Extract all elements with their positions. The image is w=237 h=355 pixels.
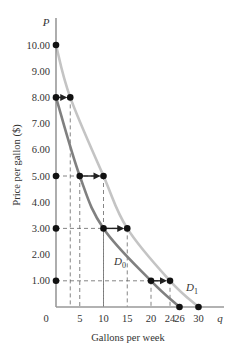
axes [56,18,224,307]
y-axis-title: Price per gallon ($) [11,124,23,206]
y-tick-label: 7.00 [32,118,50,129]
data-point [100,225,107,232]
origin-label: 0 [43,313,48,324]
y-tick-label: 5.00 [32,171,50,182]
y-tick-label: 2.00 [32,249,50,260]
x-tick-label: 30 [193,313,204,324]
data-point [53,225,60,232]
y-axis-symbol: P [42,16,50,28]
data-point [176,304,183,311]
data-point [195,304,202,311]
y-tick-label: 6.00 [32,144,50,155]
x-axis-symbol: q [217,312,223,324]
data-point [67,94,74,101]
label-d0: D0 [113,255,126,270]
arrow-head-icon [160,277,167,284]
y-tick-label: 4.00 [32,197,50,208]
data-point [53,278,60,285]
x-tick-label: 5 [77,313,82,324]
data-point [53,42,60,49]
curve-d0 [56,97,180,307]
arrow-head-icon [60,94,67,101]
y-tick-label: 8.00 [32,92,50,103]
arrow-head-icon [117,225,124,232]
y-tick-label: 3.00 [32,223,50,234]
x-tick-label: 10 [98,313,109,324]
y-tick-label: 1.00 [32,275,50,286]
data-point [53,94,60,101]
data-point [76,173,83,180]
data-point [148,278,155,285]
x-tick-label: 26 [174,313,185,324]
arrow-head-icon [94,173,101,180]
x-tick-label: 20 [146,313,157,324]
y-tick-label: 10.00 [26,40,50,51]
label-d1: D1 [185,281,198,296]
data-point [124,225,131,232]
shift-arrows [56,94,167,284]
x-tick-label: 15 [122,313,133,324]
data-point [167,278,174,285]
y-tick-label: 9.00 [32,66,50,77]
data-point [100,173,107,180]
data-point [53,173,60,180]
demand-shift-chart: 1.002.003.004.005.006.007.008.009.0010.0… [0,0,237,355]
x-axis-title: Gallons per week [91,332,165,343]
data-points [53,42,202,311]
axis-labels: 1.002.003.004.005.006.007.008.009.0010.0… [11,16,223,343]
